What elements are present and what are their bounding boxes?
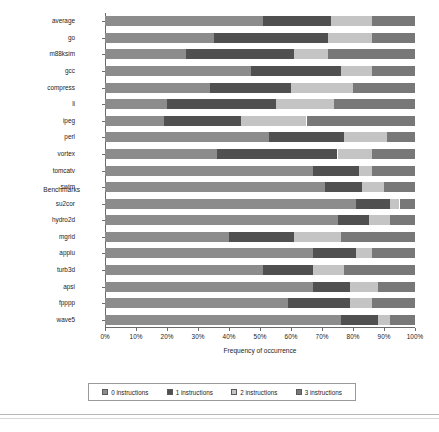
x-axis-tick [198,328,199,331]
legend-entry: 0 instructions [102,389,148,396]
y-axis-tick-label: average [0,16,75,26]
bar-segment [359,166,371,176]
bar-row [105,182,415,192]
bar-segment [105,49,186,59]
y-axis-tick [102,287,105,288]
bar-segment [229,232,294,242]
bar-segment [294,232,341,242]
chart-legend: 0 instructions1 instructions2 instructio… [88,383,356,401]
y-axis-tick [102,71,105,72]
y-axis-tick-label: gcc [0,66,75,76]
bar-row [105,33,415,43]
bar-segment [269,132,343,142]
y-axis-tick [102,220,105,221]
y-axis-tick-label: li [0,99,75,109]
x-axis-tick [353,328,354,331]
y-axis-tick [102,303,105,304]
bar-row [105,66,415,76]
x-axis-tick-label: 100% [395,333,435,340]
page-rule-primary [0,414,439,415]
y-axis-tick [102,187,105,188]
bar-segment [378,315,390,325]
bar-row [105,315,415,325]
bar-row [105,298,415,308]
legend-swatch-icon [167,389,173,395]
y-axis-tick [102,171,105,172]
bar-segment [356,199,390,209]
y-axis-tick-label: vortex [0,149,75,159]
bar-segment [390,199,399,209]
bar-segment [307,116,416,126]
bar-segment [400,199,416,209]
bar-row [105,282,415,292]
bar-row [105,132,415,142]
y-axis-tick-label: mgrid [0,232,75,242]
y-axis-tick-label: perl [0,132,75,142]
bar-row [105,215,415,225]
y-axis-tick [102,104,105,105]
page-rule-secondary [0,418,439,419]
y-axis-tick [102,270,105,271]
y-axis-tick-label: applu [0,248,75,258]
bar-row [105,16,415,26]
legend-entry: 2 instructions [231,389,277,396]
bar-segment [341,315,378,325]
legend-entry: 1 instructions [167,389,213,396]
bar-segment [105,99,167,109]
bar-segment [328,49,415,59]
bar-segment [387,132,415,142]
bar-segment [313,265,344,275]
legend-label: 1 instructions [176,389,213,396]
x-axis-tick [415,328,416,331]
bar-row [105,199,415,209]
bar-segment [105,16,263,26]
bar-segment [372,66,415,76]
bar-segment [356,248,372,258]
plot-area: averagegom88ksimgcccompressliipegperlvor… [105,13,415,328]
bar-segment [105,116,164,126]
bar-segment [288,298,350,308]
y-axis-tick-label: compress [0,83,75,93]
bar-row [105,149,415,159]
bar-segment [105,66,251,76]
legend-label: 2 instructions [240,389,277,396]
bar-segment [276,99,335,109]
x-axis-tick [167,328,168,331]
bar-segment [251,66,341,76]
bar-segment [105,315,341,325]
y-axis-tick [102,137,105,138]
y-axis-tick-label: hydro2d [0,215,75,225]
bar-row [105,116,415,126]
x-axis-tick [322,328,323,331]
bar-segment [105,282,313,292]
y-axis-tick [102,38,105,39]
bar-segment [313,282,350,292]
bar-segment [338,149,372,159]
bar-segment [338,215,369,225]
legend-entry: 3 instructions [296,389,342,396]
x-axis-tick [384,328,385,331]
bar-segment [372,248,415,258]
bar-row [105,99,415,109]
bar-segment [105,182,325,192]
bar-segment [105,248,313,258]
y-axis-tick [102,121,105,122]
bar-segment [313,248,356,258]
bar-segment [372,149,415,159]
y-axis-tick [102,88,105,89]
y-axis-tick [102,54,105,55]
bar-segment [105,232,229,242]
bar-segment [341,66,372,76]
bar-segment [390,315,415,325]
bar-row [105,265,415,275]
y-axis-tick-label: wave5 [0,315,75,325]
bar-segment [105,149,217,159]
bar-segment [331,16,371,26]
bar-segment [313,166,360,176]
y-axis-tick-label: tomcatv [0,166,75,176]
bar-row [105,49,415,59]
bar-segment [294,49,328,59]
bar-segment [372,166,415,176]
x-axis-tick [136,328,137,331]
bar-segment [167,99,276,109]
